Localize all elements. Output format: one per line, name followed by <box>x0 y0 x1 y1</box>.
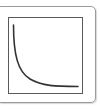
decay-curve-icon <box>0 0 100 109</box>
